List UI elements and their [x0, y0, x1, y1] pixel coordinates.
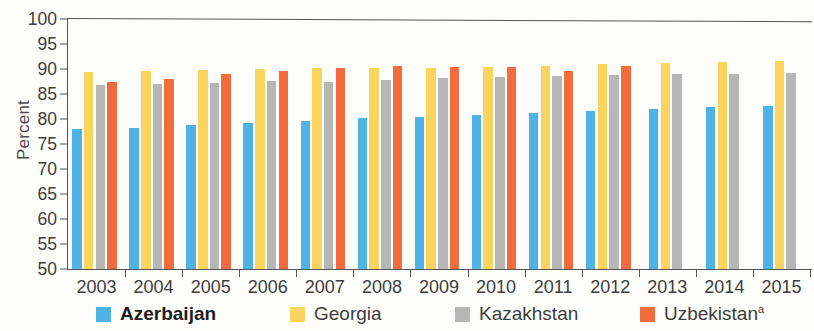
- y-axis-tick-label: 65: [0, 184, 68, 205]
- bar: [324, 82, 334, 270]
- bar: [107, 82, 117, 270]
- legend-item-kazakhstan[interactable]: Kazakhstan: [455, 300, 578, 328]
- legend-swatch-icon: [455, 307, 470, 322]
- y-axis-tick-label: 80: [0, 109, 68, 130]
- bar: [164, 79, 174, 270]
- y-axis-tick-mark: [60, 144, 68, 145]
- y-axis-tick-label: 75: [0, 134, 68, 155]
- plot-area: [68, 19, 810, 269]
- bar: [369, 68, 379, 270]
- x-axis-tick-mark: [582, 269, 583, 277]
- bar: [472, 115, 482, 270]
- x-axis-tick-label: 2003: [77, 277, 117, 298]
- bar-chart-figure: Percent 50556065707580859095100 20032004…: [0, 0, 814, 331]
- y-axis-tick-label: 90: [0, 59, 68, 80]
- y-axis-tick-mark: [60, 219, 68, 220]
- x-axis-tick-label: 2011: [534, 277, 573, 298]
- bar: [426, 68, 436, 270]
- bar: [255, 69, 265, 269]
- x-axis-tick-label: 2007: [305, 277, 345, 298]
- bar: [775, 61, 785, 270]
- x-axis-tick-mark: [525, 269, 526, 277]
- legend-swatch-icon: [640, 307, 655, 322]
- x-axis-tick-mark: [468, 269, 469, 277]
- bar: [279, 71, 289, 269]
- legend-label: Azerbaijan: [120, 303, 216, 325]
- y-axis-tick-label: 55: [0, 234, 68, 255]
- bar: [661, 63, 671, 269]
- bar: [301, 121, 311, 270]
- bar: [358, 118, 368, 270]
- y-axis-tick-label: 60: [0, 209, 68, 230]
- bar: [393, 66, 403, 269]
- x-axis-tick-mark: [239, 269, 240, 277]
- x-axis-tick-label: 2004: [134, 277, 174, 298]
- bar: [312, 68, 322, 269]
- bar: [529, 113, 539, 269]
- bar: [786, 73, 796, 270]
- bar: [381, 80, 391, 269]
- x-axis-tick-label: 2014: [704, 277, 744, 298]
- bar: [649, 109, 659, 269]
- y-axis-tick-mark: [60, 44, 68, 45]
- bar: [267, 81, 277, 269]
- x-axis-tick-mark: [753, 269, 754, 277]
- legend-item-azerbaijan[interactable]: Azerbaijan: [96, 300, 216, 328]
- legend-label: Kazakhstan: [479, 303, 578, 325]
- y-axis-tick-mark: [60, 194, 68, 195]
- bar: [495, 77, 505, 270]
- bar: [552, 76, 562, 270]
- bar: [221, 74, 231, 270]
- x-axis-tick-mark: [639, 269, 640, 277]
- y-axis-tick-mark: [60, 269, 68, 270]
- bar: [706, 107, 716, 270]
- x-axis-tick-mark: [353, 269, 354, 277]
- legend-item-georgia[interactable]: Georgia: [290, 300, 382, 328]
- legend-swatch-icon: [96, 307, 111, 322]
- bar: [129, 128, 139, 270]
- y-axis-tick-mark: [60, 169, 68, 170]
- x-axis-tick-mark: [125, 269, 126, 277]
- y-axis-tick-mark: [60, 94, 68, 95]
- bar: [198, 70, 208, 270]
- x-axis-tick-mark: [410, 269, 411, 277]
- bar: [718, 62, 728, 269]
- bar: [507, 67, 517, 270]
- bar: [729, 74, 739, 269]
- y-axis-tick-label: 95: [0, 34, 68, 55]
- bar: [141, 71, 151, 270]
- bar: [438, 78, 448, 269]
- bar: [153, 84, 163, 269]
- x-axis-tick-mark: [810, 269, 811, 277]
- legend-label: Georgia: [314, 303, 382, 325]
- bar: [243, 123, 253, 269]
- legend-footnote-marker: a: [758, 303, 764, 315]
- bar: [96, 85, 106, 270]
- y-axis-tick-mark: [60, 69, 68, 70]
- y-axis-tick-label: 50: [0, 259, 68, 280]
- bar: [564, 71, 574, 270]
- x-axis-tick-label: 2010: [476, 277, 516, 298]
- x-axis-tick-mark: [296, 269, 297, 277]
- x-axis-line: [67, 269, 812, 270]
- y-axis-tick-label: 85: [0, 84, 68, 105]
- y-axis-tick-mark: [60, 19, 68, 20]
- x-axis-tick-label: 2015: [761, 277, 801, 298]
- bar: [586, 111, 596, 270]
- x-axis-tick-mark: [696, 269, 697, 277]
- chart-legend: AzerbaijanGeorgiaKazakhstanUzbekistana: [0, 300, 814, 331]
- x-axis-tick-label: 2013: [647, 277, 687, 298]
- x-axis-tick-label: 2005: [191, 277, 231, 298]
- bar: [672, 74, 682, 269]
- y-axis-tick-mark: [60, 244, 68, 245]
- bar: [483, 67, 493, 270]
- bar: [763, 106, 773, 270]
- x-axis-tick-label: 2006: [248, 277, 288, 298]
- bar: [72, 129, 82, 269]
- x-axis-tick-label: 2008: [362, 277, 402, 298]
- legend-swatch-icon: [290, 307, 305, 322]
- bar: [210, 83, 220, 270]
- bar: [621, 66, 631, 269]
- legend-item-uzbekistan[interactable]: Uzbekistana: [640, 300, 764, 328]
- x-axis-tick-label: 2009: [419, 277, 459, 298]
